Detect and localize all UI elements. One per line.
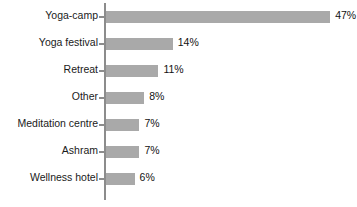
bar — [106, 38, 173, 50]
axis-tick — [99, 124, 105, 126]
bar — [106, 119, 139, 131]
bar-value-label: 14% — [178, 35, 199, 49]
bar-value-label: 7% — [144, 116, 159, 130]
bar-row: Other8% — [0, 91, 357, 105]
category-label: Yoga-camp — [0, 8, 98, 22]
bar — [106, 92, 144, 104]
bar-value-label: 8% — [149, 89, 164, 103]
bar-value-label: 7% — [144, 143, 159, 157]
axis-tick — [99, 70, 105, 72]
bar-chart: Yoga-camp47%Yoga festival14%Retreat11%Ot… — [0, 0, 357, 207]
axis-tick — [99, 16, 105, 18]
axis-tick — [99, 151, 105, 153]
category-label: Meditation centre — [0, 116, 98, 130]
bar — [106, 11, 330, 23]
bar — [106, 146, 139, 158]
bar-row: Wellness hotel6% — [0, 172, 357, 186]
bar — [106, 173, 135, 185]
category-label: Yoga festival — [0, 35, 98, 49]
category-label: Wellness hotel — [0, 170, 98, 184]
bar-value-label: 47% — [335, 8, 356, 22]
bar-row: Retreat11% — [0, 64, 357, 78]
bar-row: Yoga festival14% — [0, 37, 357, 51]
bar-row: Yoga-camp47% — [0, 10, 357, 24]
category-label: Ashram — [0, 143, 98, 157]
axis-tick — [99, 178, 105, 180]
axis-tick — [99, 43, 105, 45]
bar-row: Meditation centre7% — [0, 118, 357, 132]
bar-value-label: 11% — [163, 62, 183, 76]
bar-value-label: 6% — [140, 170, 155, 184]
bar-row: Ashram7% — [0, 145, 357, 159]
bar — [106, 65, 158, 77]
axis-tick — [99, 97, 105, 99]
category-label: Other — [0, 89, 98, 103]
category-label: Retreat — [0, 62, 98, 76]
